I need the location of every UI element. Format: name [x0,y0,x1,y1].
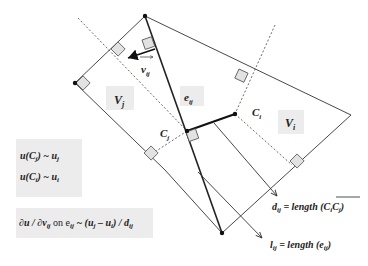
voronoi-diagram: vij eij Vj Vi Ci Cj u(Cj) ~ uj u(Ci) ~ u… [0,0,368,266]
right-angle-marker [144,146,158,160]
right-angle-marker [290,154,304,168]
dashed-line-left [78,18,187,131]
label-ci: Ci [252,106,261,121]
point-cj [185,129,189,133]
equation-box-u [16,139,82,197]
annotation-dij: dij = length (CiCj) [272,201,344,214]
right-angle-marker [235,69,248,82]
right-angle-marker [76,76,90,90]
segment-ci-cj [187,114,235,131]
vertex-top [143,14,147,18]
label-vij: vij [141,63,150,78]
right-angle-marker [111,42,125,56]
vertex-left [73,81,77,85]
vertex-bottom [220,231,224,235]
label-cj: Cj [160,127,169,142]
edge-eij [145,16,222,233]
lower-left-edge-2 [165,170,222,233]
annotation-lij: lij = length (eij) [270,239,331,252]
point-ci [233,112,237,116]
dij-pointer-arrow [214,123,277,196]
